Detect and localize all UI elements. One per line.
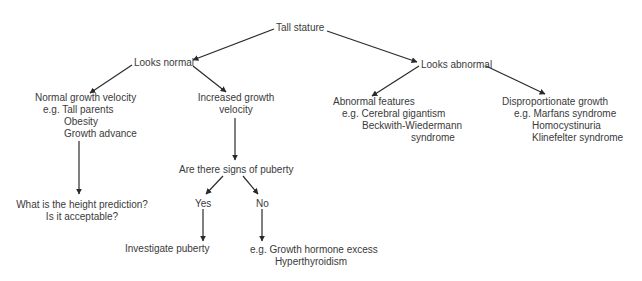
node-example: syndrome (333, 132, 462, 144)
node-title: Disproportionate growth (502, 96, 623, 108)
node-example: Beckwith-Wiedermann (333, 120, 462, 132)
node-looks-abnormal: Looks abnormal (421, 59, 492, 71)
node-line: Increased growth (196, 92, 276, 104)
node-signs-of-puberty: Are there signs of puberty (179, 164, 294, 176)
node-line: velocity (196, 104, 276, 116)
node-label: Looks normal (134, 57, 194, 68)
node-label: Investigate puberty (125, 243, 210, 254)
node-label: Tall stature (276, 22, 324, 33)
node-title: Normal growth velocity (35, 92, 137, 104)
node-growth-hormone-excess: e.g. Growth hormone excess Hyperthyroidi… (250, 244, 372, 268)
node-title: Abnormal features (333, 96, 462, 108)
node-no: No (256, 198, 269, 210)
node-looks-normal: Looks normal (134, 57, 194, 69)
node-example: e.g. Marfans syndrome (502, 108, 623, 120)
node-example: e.g. Cerebral gigantism (333, 108, 462, 120)
edge-puberty-to-yes (206, 176, 223, 194)
node-line: What is the height prediction? (14, 199, 150, 211)
node-label: No (256, 198, 269, 209)
node-line: Is it acceptable? (14, 211, 150, 223)
edge-puberty-to-no (243, 176, 258, 194)
edge-tall-to-abnormal (327, 31, 417, 62)
node-label: Are there signs of puberty (179, 164, 294, 175)
node-investigate-puberty: Investigate puberty (125, 243, 210, 255)
edge-normal-to-normal-growth (90, 65, 132, 93)
tall-stature-flowchart: Tall stature Looks normal Looks abnormal… (0, 0, 642, 281)
node-example: Growth advance (35, 128, 137, 140)
node-abnormal-features: Abnormal features e.g. Cerebral gigantis… (333, 96, 462, 144)
node-yes: Yes (195, 198, 211, 210)
edge-abnormal-to-features (372, 66, 419, 96)
node-example: Homocystinuria (502, 120, 623, 132)
edge-tall-to-normal (193, 29, 274, 60)
node-example: Obesity (35, 116, 137, 128)
node-disproportionate-growth: Disproportionate growth e.g. Marfans syn… (502, 96, 623, 144)
node-normal-growth-velocity: Normal growth velocity e.g. Tall parents… (35, 92, 137, 140)
node-example: e.g. Tall parents (35, 104, 137, 116)
node-tall-stature: Tall stature (276, 22, 324, 34)
node-increased-growth-velocity: Increased growth velocity (196, 92, 276, 116)
edge-abnormal-to-disproportionate (486, 66, 545, 94)
node-label: Yes (195, 198, 211, 209)
node-label: Looks abnormal (421, 59, 492, 70)
edge-normal-to-increased (193, 66, 226, 92)
node-example: Klinefelter syndrome (502, 132, 623, 144)
node-line: Hyperthyroidism (250, 256, 372, 268)
node-height-prediction: What is the height prediction? Is it acc… (14, 199, 150, 223)
node-line: e.g. Growth hormone excess (250, 244, 372, 256)
